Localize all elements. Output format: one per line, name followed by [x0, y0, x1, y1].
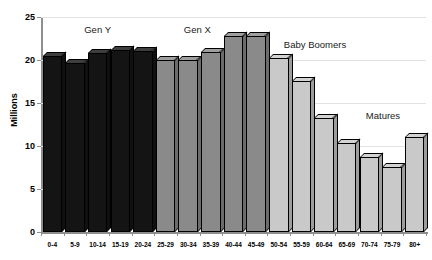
bar-front-face	[133, 51, 152, 232]
bar[interactable]	[246, 36, 265, 232]
bar[interactable]	[269, 58, 288, 232]
bar[interactable]	[156, 60, 175, 232]
bar-side-face	[424, 133, 428, 232]
bar[interactable]	[292, 81, 311, 232]
y-axis-tick-label: 0	[30, 227, 35, 237]
x-axis-tick-label: 45-49	[248, 241, 265, 248]
bar[interactable]	[405, 137, 424, 232]
x-axis-tick	[41, 232, 42, 236]
x-axis-tick	[335, 232, 336, 236]
x-axis-tick-label: 25-29	[157, 241, 174, 248]
bar-front-face	[224, 36, 243, 232]
bar[interactable]	[360, 157, 379, 232]
y-axis-tick	[37, 60, 41, 61]
bar[interactable]	[111, 50, 130, 232]
bar-side-face	[153, 47, 157, 232]
annotation-gen-x: Gen X	[184, 24, 211, 35]
x-axis-tick	[358, 232, 359, 236]
x-axis-line	[41, 232, 428, 234]
x-axis-tick-label: 50-54	[270, 241, 287, 248]
bar-side-face	[334, 113, 338, 232]
bar-front-face	[314, 118, 333, 232]
x-axis-tick	[290, 232, 291, 236]
bar-front-face	[382, 167, 401, 232]
y-axis-tick-label: 20	[25, 55, 35, 65]
bar-side-face	[85, 59, 89, 232]
gridline	[41, 17, 426, 18]
x-axis-tick-label: 60-64	[316, 241, 333, 248]
bar-front-face	[43, 56, 62, 232]
bar-front-face	[405, 137, 424, 232]
y-axis-tick	[37, 17, 41, 18]
bar-side-face	[243, 31, 247, 232]
x-axis-tick	[222, 232, 223, 236]
x-axis-tick-label: 5-9	[70, 241, 79, 248]
x-axis-tick-label: 70-74	[361, 241, 378, 248]
x-axis-tick-label: 40-44	[225, 241, 242, 248]
x-axis-tick-label: 65-69	[338, 241, 355, 248]
y-axis-tick-label: 25	[25, 12, 35, 22]
x-axis-tick-label: 30-34	[180, 241, 197, 248]
x-axis-tick-label: 0-4	[48, 241, 57, 248]
annotation-matures: Matures	[366, 110, 400, 121]
bar[interactable]	[133, 51, 152, 232]
bar[interactable]	[314, 118, 333, 232]
bar[interactable]	[201, 52, 220, 232]
y-axis-tick-label: 10	[25, 141, 35, 151]
bar[interactable]	[65, 63, 84, 232]
bar-side-face	[198, 56, 202, 232]
bar-front-face	[111, 50, 130, 232]
x-axis-tick-label: 80+	[409, 241, 420, 248]
x-axis-tick	[381, 232, 382, 236]
bar-side-face	[266, 31, 270, 232]
bar-side-face	[289, 54, 293, 232]
annotation-baby-boomers: Baby Boomers	[284, 38, 346, 49]
bar[interactable]	[224, 36, 243, 232]
bar[interactable]	[178, 60, 197, 232]
x-axis-tick	[154, 232, 155, 236]
bar-front-face	[337, 143, 356, 232]
bar-front-face	[269, 58, 288, 232]
bar[interactable]	[88, 53, 107, 232]
x-axis-tick-label: 35-39	[203, 241, 220, 248]
x-axis-tick-label: 15-19	[112, 241, 129, 248]
x-axis-tick-label: 20-24	[135, 241, 152, 248]
bar-front-face	[201, 52, 220, 232]
bar-side-face	[107, 49, 111, 232]
x-axis-tick	[200, 232, 201, 236]
y-axis-tick	[37, 146, 41, 147]
annotation-gen-y: Gen Y	[84, 24, 111, 35]
bar-front-face	[178, 60, 197, 232]
x-axis-tick-label: 10-14	[89, 241, 106, 248]
plot-area: 0510152025	[41, 17, 426, 232]
bar-chart: Millions 0510152025 0-45-910-1415-1920-2…	[0, 0, 432, 260]
x-axis-tick	[267, 232, 268, 236]
bar-side-face	[62, 51, 66, 232]
bar-side-face	[402, 162, 406, 232]
x-axis-tick-label: 55-59	[293, 241, 310, 248]
y-axis-title: Millions	[9, 75, 19, 145]
bar-side-face	[130, 45, 134, 232]
bar-front-face	[292, 81, 311, 232]
x-axis-tick-label: 75-79	[384, 241, 401, 248]
bar-side-face	[379, 153, 383, 232]
bar-side-face	[175, 56, 179, 232]
bar-side-face	[221, 48, 225, 232]
y-axis-tick	[37, 189, 41, 190]
bar[interactable]	[382, 167, 401, 232]
bar-side-face	[311, 76, 315, 232]
x-axis-tick	[177, 232, 178, 236]
x-axis-tick	[86, 232, 87, 236]
bar[interactable]	[337, 143, 356, 232]
x-axis-tick	[245, 232, 246, 236]
x-axis-tick	[132, 232, 133, 236]
bar-side-face	[356, 138, 360, 232]
bar-front-face	[88, 53, 107, 232]
bar-front-face	[246, 36, 265, 232]
y-axis-tick-label: 5	[30, 184, 35, 194]
y-axis-tick	[37, 103, 41, 104]
bar-front-face	[360, 157, 379, 232]
bar-front-face	[156, 60, 175, 232]
x-axis-tick	[313, 232, 314, 236]
bar[interactable]	[43, 56, 62, 232]
